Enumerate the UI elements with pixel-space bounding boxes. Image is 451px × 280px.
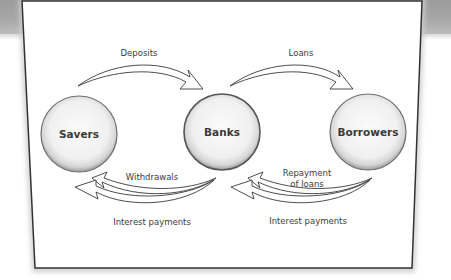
repayment-label-line2: of loans <box>290 179 324 189</box>
loans-label: Loans <box>289 48 314 58</box>
repayment-label-line1: Repayment <box>283 168 332 178</box>
borrowers-label: Borrowers <box>337 126 398 138</box>
node-borrowers: Borrowers <box>330 94 406 170</box>
interest-payments-banks-label: Interest payments <box>269 216 347 226</box>
node-banks: Banks <box>184 94 260 170</box>
interest-payments-savers-label: Interest payments <box>113 217 191 227</box>
node-savers: Savers <box>41 96 117 172</box>
banks-label: Banks <box>204 126 240 138</box>
deposits-label: Deposits <box>121 48 158 58</box>
savers-label: Savers <box>59 128 99 140</box>
withdrawals-label: Withdrawals <box>126 172 179 182</box>
bank-flow-diagram: Savers Banks Borrowers Deposits Loans Wi… <box>0 0 451 280</box>
